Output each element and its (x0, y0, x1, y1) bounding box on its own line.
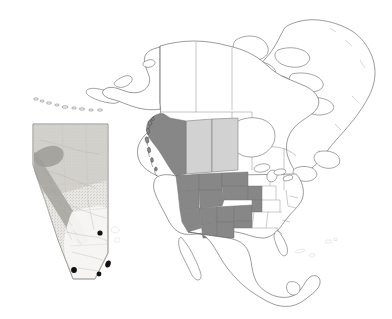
state-idaho-south (199, 190, 224, 208)
state-utah (217, 206, 234, 222)
yucatan-peninsula (287, 282, 300, 295)
site-marker (97, 272, 102, 277)
province-alberta-shaded (186, 119, 212, 174)
site-marker (71, 267, 77, 273)
state-oklahoma-panhandle (234, 221, 252, 228)
state-idaho-north (199, 173, 222, 190)
map-canvas (0, 0, 392, 319)
state-kansas (252, 200, 262, 212)
figure-root (0, 0, 392, 319)
state-oregon (178, 190, 199, 210)
state-new-mexico (217, 222, 234, 238)
state-colorado (234, 205, 252, 222)
state-wyoming (222, 186, 248, 200)
state-nebraska (248, 186, 262, 200)
state-nevada (200, 207, 217, 224)
light-shaded-provinces (186, 118, 238, 174)
province-saskatchewan-shaded (212, 118, 238, 172)
state-washington (176, 174, 199, 192)
site-marker (97, 230, 102, 235)
state-montana (222, 172, 248, 186)
